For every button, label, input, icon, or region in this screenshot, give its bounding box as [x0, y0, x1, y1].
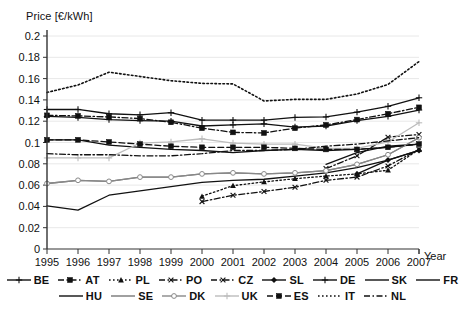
legend-label: UK — [242, 290, 258, 302]
legend-line-sample — [415, 274, 441, 286]
series-hu — [47, 150, 419, 210]
chart-figure: Price [€/kWh] Year 00.020.040.060.080.10… — [0, 0, 464, 321]
legend-line-sample — [214, 290, 240, 302]
plot-area: 00.020.040.060.080.10.120.140.160.180.2 … — [0, 0, 464, 272]
svg-text:1998: 1998 — [128, 256, 152, 268]
svg-text:0.16: 0.16 — [19, 73, 40, 85]
legend-line-sample — [364, 274, 390, 286]
svg-text:0.14: 0.14 — [19, 94, 40, 106]
legend-label: AT — [85, 274, 99, 286]
legend-line-sample — [57, 274, 83, 286]
legend-item-uk[interactable]: UK — [214, 290, 258, 302]
legend-line-sample — [161, 290, 187, 302]
legend-label: CZ — [238, 274, 253, 286]
legend-item-at[interactable]: AT — [57, 274, 99, 286]
legend-item-cz[interactable]: CZ — [210, 274, 253, 286]
legend-item-it[interactable]: IT — [317, 290, 355, 302]
svg-text:0.08: 0.08 — [19, 158, 40, 170]
legend-line-sample — [266, 290, 292, 302]
legend-label: PO — [186, 274, 202, 286]
legend-item-es[interactable]: ES — [266, 290, 309, 302]
svg-text:1996: 1996 — [66, 256, 90, 268]
svg-text:0.2: 0.2 — [25, 30, 40, 42]
svg-text:2002: 2002 — [252, 256, 276, 268]
legend-item-nl[interactable]: NL — [363, 290, 406, 302]
svg-text:1997: 1997 — [97, 256, 121, 268]
legend-line-sample — [6, 274, 32, 286]
svg-text:0.02: 0.02 — [19, 222, 40, 234]
chart-legend: BEATPLPOCZSLDESKFRHUSEDKUKESITNL — [0, 272, 464, 304]
legend-row-1: BEATPLPOCZSLDESKFR — [0, 272, 464, 288]
legend-label: ES — [294, 290, 309, 302]
legend-row-2: HUSEDKUKESITNL — [0, 288, 464, 304]
svg-text:1999: 1999 — [159, 256, 183, 268]
legend-line-sample — [108, 274, 134, 286]
legend-line-sample — [312, 274, 338, 286]
legend-line-sample — [261, 274, 287, 286]
legend-label: FR — [443, 274, 458, 286]
legend-label: BE — [34, 274, 50, 286]
svg-text:2000: 2000 — [190, 256, 214, 268]
legend-item-po[interactable]: PO — [158, 274, 202, 286]
data-series-layer — [44, 62, 422, 211]
legend-label: PL — [136, 274, 150, 286]
series-cz — [324, 132, 422, 171]
legend-label: HU — [86, 290, 102, 302]
legend-item-dk[interactable]: DK — [161, 290, 205, 302]
series-es — [45, 137, 422, 151]
svg-text:2001: 2001 — [221, 256, 245, 268]
legend-item-hu[interactable]: HU — [58, 290, 102, 302]
svg-text:2005: 2005 — [345, 256, 369, 268]
svg-text:0.12: 0.12 — [19, 115, 40, 127]
legend-item-sk[interactable]: SK — [364, 274, 408, 286]
legend-line-sample — [110, 290, 136, 302]
legend-item-sl[interactable]: SL — [261, 274, 303, 286]
legend-item-de[interactable]: DE — [312, 274, 356, 286]
legend-item-fr[interactable]: FR — [415, 274, 458, 286]
legend-line-sample — [58, 290, 84, 302]
legend-line-sample — [210, 274, 236, 286]
y-axis-ticks: 00.020.040.060.080.10.120.140.160.180.2 — [19, 30, 47, 255]
legend-item-be[interactable]: BE — [6, 274, 50, 286]
svg-text:2007: 2007 — [407, 256, 431, 268]
svg-text:0.04: 0.04 — [19, 200, 40, 212]
legend-label: SE — [138, 290, 153, 302]
x-axis-ticks: 1995199619971998199920002001200220032004… — [35, 249, 431, 268]
legend-label: SL — [289, 274, 303, 286]
series-it — [47, 62, 419, 101]
legend-label: DE — [340, 274, 356, 286]
svg-text:0.06: 0.06 — [19, 179, 40, 191]
legend-label: NL — [391, 290, 406, 302]
legend-label: SK — [392, 274, 408, 286]
svg-text:2003: 2003 — [283, 256, 307, 268]
legend-item-pl[interactable]: PL — [108, 274, 150, 286]
legend-label: DK — [189, 290, 205, 302]
svg-text:2004: 2004 — [314, 256, 338, 268]
legend-line-sample — [363, 290, 389, 302]
legend-line-sample — [317, 290, 343, 302]
svg-text:2006: 2006 — [376, 256, 400, 268]
legend-item-se[interactable]: SE — [110, 290, 153, 302]
svg-text:0.18: 0.18 — [19, 51, 40, 63]
legend-label: IT — [345, 290, 355, 302]
legend-line-sample — [158, 274, 184, 286]
svg-text:0.1: 0.1 — [25, 137, 40, 149]
svg-text:0: 0 — [34, 243, 40, 255]
svg-text:1995: 1995 — [35, 256, 59, 268]
